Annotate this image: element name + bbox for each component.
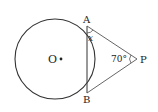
label-a: A	[82, 14, 91, 25]
label-angle-x: x	[88, 33, 93, 43]
center-dot	[60, 58, 63, 61]
label-angle-70: 70°	[111, 54, 127, 64]
label-o: O	[48, 53, 57, 66]
angle-p-arc	[130, 55, 132, 63]
label-p: P	[140, 54, 147, 65]
label-b: B	[83, 94, 90, 105]
geometry-diagram: O A B P x 70°	[0, 0, 158, 112]
